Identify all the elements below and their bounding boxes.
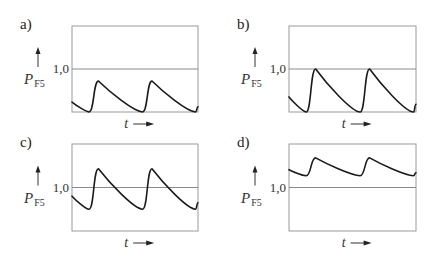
series-line-d	[289, 158, 416, 176]
tick-label-1-0: 1,0	[53, 180, 69, 195]
y-axis-label: PF5	[23, 190, 45, 208]
y-axis-label-subscript: F5	[251, 78, 262, 89]
panel-label: b)	[237, 16, 250, 33]
tick-label-1-0: 1,0	[270, 180, 286, 195]
y-axis-label-main: P	[240, 190, 250, 206]
y-axis-label: PF5	[23, 71, 45, 89]
chart-panel-c: c)1,0PF5t	[20, 134, 198, 250]
figure: a)1,0PF5tb)1,0PF5tc)1,0PF5td)1,0PF5t	[0, 0, 434, 257]
y-axis-arrow-icon	[253, 166, 258, 173]
x-axis-label: t	[342, 116, 347, 131]
chart-panel-a: a)1,0PF5t	[20, 16, 198, 131]
y-axis-arrow-icon	[36, 166, 41, 173]
tick-label-1-0: 1,0	[270, 61, 286, 76]
x-axis-label: t	[124, 116, 129, 131]
series-line-a	[72, 81, 198, 112]
series-line-c	[72, 169, 198, 209]
x-axis-arrow-icon	[364, 241, 372, 246]
panel-label: d)	[237, 134, 250, 151]
x-axis-arrow-icon	[364, 122, 372, 127]
y-axis-label-main: P	[240, 71, 250, 87]
y-axis-label: PF5	[240, 71, 262, 89]
y-axis-arrow-icon	[253, 47, 258, 54]
panel-label: c)	[20, 134, 32, 151]
panel-label: a)	[20, 16, 32, 33]
x-axis-label: t	[342, 235, 347, 250]
y-axis-label-subscript: F5	[34, 197, 45, 208]
y-axis-arrow-icon	[36, 47, 41, 54]
y-axis-label-main: P	[23, 71, 33, 87]
y-axis-label-subscript: F5	[251, 197, 262, 208]
y-axis-label: PF5	[240, 190, 262, 208]
y-axis-label-main: P	[23, 190, 33, 206]
tick-label-1-0: 1,0	[53, 61, 69, 76]
chart-panel-d: d)1,0PF5t	[237, 134, 416, 250]
y-axis-label-subscript: F5	[34, 78, 45, 89]
x-axis-arrow-icon	[146, 122, 154, 127]
chart-panel-b: b)1,0PF5t	[237, 16, 416, 131]
x-axis-arrow-icon	[146, 241, 154, 246]
series-line-b	[289, 69, 416, 112]
x-axis-label: t	[124, 235, 129, 250]
